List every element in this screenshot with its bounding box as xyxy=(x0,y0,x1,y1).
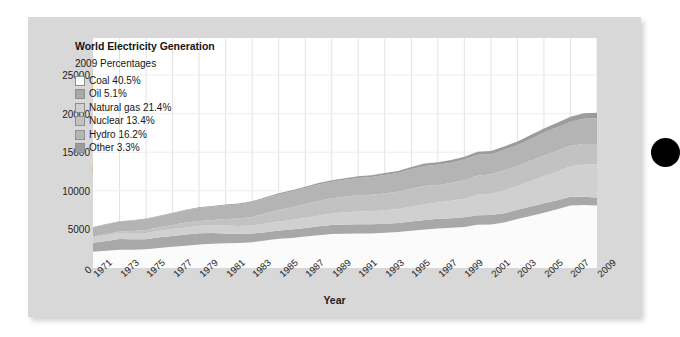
legend-item: Natural gas 21.4% xyxy=(75,103,215,113)
legend-item: Nuclear 13.4% xyxy=(75,116,215,126)
legend-item-label: Nuclear 13.4% xyxy=(89,116,155,126)
legend-item-label: Coal 40.5% xyxy=(89,76,141,86)
legend-item-label: Oil 5.1% xyxy=(89,89,127,99)
legend-item: Oil 5.1% xyxy=(75,89,215,99)
legend-item: Hydro 16.2% xyxy=(75,130,215,140)
legend-swatch-icon xyxy=(75,76,85,86)
y-tick-label: 10000 xyxy=(38,185,90,196)
legend-entry-list: Coal 40.5%Oil 5.1%Natural gas 21.4%Nucle… xyxy=(75,76,215,154)
legend-item-label: Natural gas 21.4% xyxy=(89,103,171,113)
legend-item: Other 3.3% xyxy=(75,143,215,153)
legend-item: Coal 40.5% xyxy=(75,76,215,86)
legend-swatch-icon xyxy=(75,116,85,126)
legend-item-label: Other 3.3% xyxy=(89,143,140,153)
chart-figure: Terawatt-hours (TWh) 0500010000150002000… xyxy=(28,17,641,317)
legend-title: World Electricity Generation xyxy=(75,41,215,52)
x-axis-title: Year xyxy=(28,294,641,306)
legend-swatch-icon xyxy=(75,143,85,153)
legend-subtitle: 2009 Percentages xyxy=(75,59,215,69)
chart-legend: World Electricity Generation 2009 Percen… xyxy=(75,41,215,157)
legend-swatch-icon xyxy=(75,89,85,99)
legend-swatch-icon xyxy=(75,130,85,140)
legend-item-label: Hydro 16.2% xyxy=(89,130,147,140)
y-tick-label: 5000 xyxy=(38,224,90,235)
decorative-circle xyxy=(651,138,680,167)
legend-swatch-icon xyxy=(75,103,85,113)
x-tick-label: 2009 xyxy=(595,257,618,279)
